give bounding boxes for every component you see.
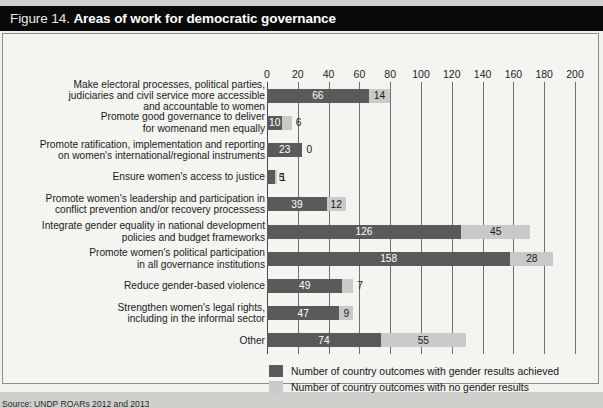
stacked-bar: 7455 [267,333,575,347]
bar-segment-no-results [342,279,353,293]
x-tick-label: 200 [566,68,584,80]
legend-item: Number of country outcomes with no gende… [269,381,559,393]
figure-title: Areas of work for democratic governance [73,11,335,26]
x-tick-label: 20 [292,68,304,80]
bar-segment-achieved: 66 [267,89,369,103]
figure-source: Source: UNDP ROARs 2012 and 2013 [2,399,149,408]
figure-panel: Figure 14. Areas of work for democratic … [0,6,603,392]
bar-segment-no-results: 45 [461,225,530,239]
figure-number: Figure 14. [10,11,70,26]
chart-row: Promote good governance to deliver for w… [3,109,600,136]
chart-row: Promote women's leadership and participa… [3,191,600,218]
x-tick-label: 140 [474,68,492,80]
bar-value-label: 1 [276,170,286,184]
x-tick-label: 60 [354,68,366,80]
x-tick-label: 160 [505,68,523,80]
bar-segment-no-results: 14 [369,89,391,103]
bar-segment-achieved: 126 [267,225,461,239]
legend-label: Number of country outcomes with gender r… [291,366,559,377]
bar-segment-no-results [282,116,291,130]
legend-label: Number of country outcomes with no gende… [291,382,529,393]
chart-row: Promote women's political participation … [3,245,600,272]
bar-value-label: 7 [353,279,363,293]
bar-segment-no-results: 55 [381,333,466,347]
category-label: Promote good governance to deliver for w… [5,111,265,134]
stacked-bar: 497 [267,279,575,293]
category-label: Integrate gender equality in national de… [5,220,265,243]
bar-segment-achieved: 10 [267,116,282,130]
stacked-bar: 479 [267,306,575,320]
chart-bars: Make electoral processes, political part… [3,82,600,354]
chart-row: Make electoral processes, political part… [3,82,600,109]
bar-segment-no-results: 9 [339,306,353,320]
stacked-bar: 230 [267,143,575,157]
stacked-bar: 12645 [267,225,575,239]
category-label: Ensure women's access to justice [5,171,265,182]
category-label: Reduce gender-based violence [5,280,265,291]
chart-row: Other7455 [3,327,600,354]
category-label: Make electoral processes, political part… [5,79,265,113]
stacked-bar: 3912 [267,197,575,211]
bar-value-label: 6 [292,116,302,130]
category-label: Promote women's leadership and participa… [5,193,265,216]
x-tick-label: 40 [323,68,335,80]
page-title: Figure 14. Areas of work for democratic … [0,11,336,26]
bar-value-label: 0 [302,143,312,157]
bar-segment-achieved: 23 [267,143,302,157]
bar-segment-achieved: 74 [267,333,381,347]
legend-swatch [269,381,283,393]
x-tick-label: 100 [412,68,430,80]
stacked-bar: 6614 [267,89,575,103]
chart-row: Promote ratification, implementation and… [3,136,600,163]
x-tick-label: 180 [535,68,553,80]
bar-segment-achieved: 47 [267,306,339,320]
chart-frame: 020406080100120140160180200 Make elector… [2,33,599,384]
legend-item: Number of country outcomes with gender r… [269,365,559,377]
bar-segment-no-results: 28 [510,252,553,266]
stacked-bar: 106 [267,116,575,130]
chart-row: Strengthen women's legal rights, includi… [3,300,600,327]
chart-row: Reduce gender-based violence497 [3,272,600,299]
stacked-bar: 51 [267,170,575,184]
figure-title-bar: Figure 14. Areas of work for democratic … [0,6,603,31]
bar-segment-achieved: 158 [267,252,510,266]
bar-segment-no-results: 12 [327,197,345,211]
stacked-bar: 15828 [267,252,575,266]
category-label: Strengthen women's legal rights, includi… [5,302,265,325]
category-label: Other [5,335,265,346]
chart-row: Ensure women's access to justice51 [3,164,600,191]
bar-segment-achieved [267,170,275,184]
chart-row: Integrate gender equality in national de… [3,218,600,245]
bar-segment-achieved: 39 [267,197,327,211]
x-tick-label: 120 [443,68,461,80]
bar-segment-achieved: 49 [267,279,342,293]
x-tick-label: 80 [384,68,396,80]
chart-legend: Number of country outcomes with gender r… [269,365,559,397]
category-label: Promote women's political participation … [5,247,265,270]
x-axis-tick-labels: 020406080100120140160180200 [267,68,575,82]
legend-swatch [269,365,283,377]
category-label: Promote ratification, implementation and… [5,139,265,162]
